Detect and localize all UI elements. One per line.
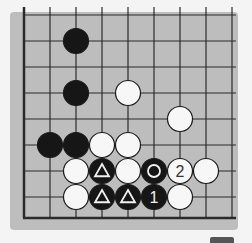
black-stone xyxy=(64,81,89,106)
black-stone xyxy=(64,29,89,54)
white-stone xyxy=(168,185,193,210)
move-number-label: 1 xyxy=(150,189,159,206)
white-stone xyxy=(90,133,115,158)
white-stone xyxy=(116,81,141,106)
move-number-label: 2 xyxy=(176,163,185,180)
white-stone xyxy=(116,133,141,158)
black-stone xyxy=(142,159,167,184)
black-stone xyxy=(38,133,63,158)
white-stone xyxy=(64,185,89,210)
page-corner-tab xyxy=(210,237,234,243)
black-stone xyxy=(64,133,89,158)
white-stone xyxy=(64,159,89,184)
white-stone xyxy=(116,159,141,184)
white-stone xyxy=(168,107,193,132)
white-stone xyxy=(194,159,219,184)
